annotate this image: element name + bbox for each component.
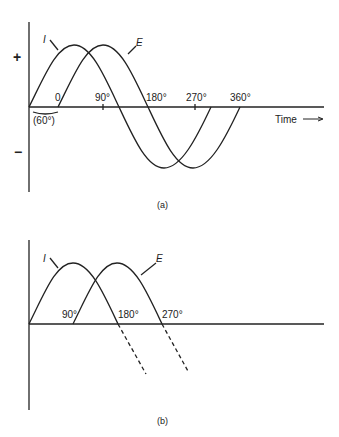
tick-label-b-270: 270° xyxy=(162,309,183,320)
tick-label-270: 270° xyxy=(186,92,207,103)
caption-b: (b) xyxy=(157,416,168,426)
figure-b xyxy=(29,240,324,410)
tick-label-90: 90° xyxy=(95,92,110,103)
tick-label-0: 0 xyxy=(55,92,61,103)
label-line-i-b xyxy=(50,258,58,268)
voltage-label-b: E xyxy=(156,253,163,264)
tick-label-b-90: 90° xyxy=(62,309,77,320)
phase-diagram: + − I E 0 90° 180° 270° 360° (60°) Time … xyxy=(0,0,339,437)
caption-a: (a) xyxy=(157,200,168,210)
tick-label-180: 180° xyxy=(146,92,167,103)
phase-label: (60°) xyxy=(33,115,55,126)
voltage-continuation-dashed xyxy=(162,324,189,373)
tick-label-360: 360° xyxy=(230,92,251,103)
phase-brace xyxy=(33,112,58,114)
current-label-b: I xyxy=(43,253,46,264)
figure-a xyxy=(29,22,324,192)
time-label: Time xyxy=(275,114,297,125)
voltage-label-a: E xyxy=(136,37,143,48)
current-continuation-dashed xyxy=(118,324,146,374)
label-line-e-b xyxy=(141,263,156,275)
plus-label: + xyxy=(13,49,21,65)
minus-label: − xyxy=(14,144,22,160)
label-line-e xyxy=(128,46,136,54)
tick-label-b-180: 180° xyxy=(118,309,139,320)
current-label-a: I xyxy=(43,34,46,45)
label-line-i xyxy=(50,40,58,50)
